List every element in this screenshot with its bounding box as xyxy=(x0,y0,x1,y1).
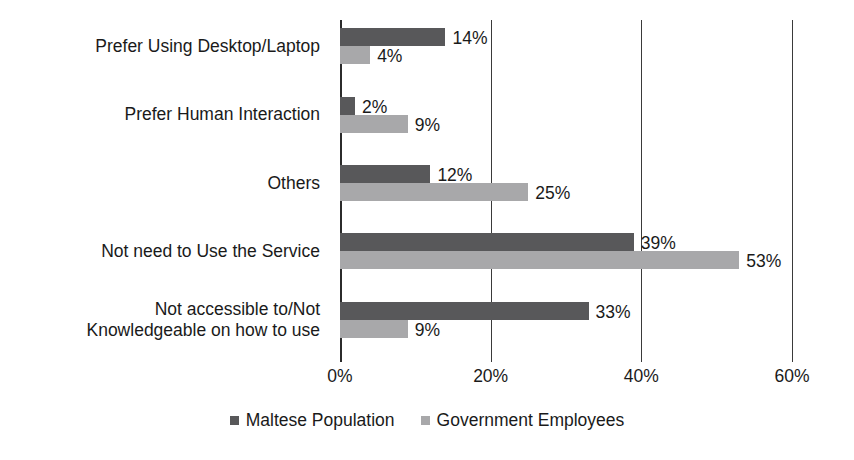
x-tick-label-40: 40% xyxy=(624,366,659,387)
chart-legend: Maltese PopulationGovernment Employees xyxy=(0,410,854,431)
legend-swatch-maltese-population xyxy=(230,416,239,425)
bar-0-4 xyxy=(340,302,589,320)
bar-value-label-0-0: 14% xyxy=(452,29,487,47)
legend-label-1: Government Employees xyxy=(437,410,625,431)
category-label-3: Not need to Use the Service xyxy=(0,241,320,262)
bar-value-label-0-2: 12% xyxy=(437,166,472,184)
legend-item-1[interactable]: Government Employees xyxy=(421,410,625,431)
bar-value-label-1-1: 9% xyxy=(415,116,440,134)
category-label-1: Prefer Human Interaction xyxy=(0,104,320,125)
bar-0-3 xyxy=(340,233,634,251)
bar-1-0 xyxy=(340,46,370,64)
gridline-60 xyxy=(792,20,793,362)
bar-value-label-0-4: 33% xyxy=(596,303,631,321)
gridline-40 xyxy=(641,20,642,362)
legend-label-0: Maltese Population xyxy=(246,410,395,431)
bar-value-label-1-4: 9% xyxy=(415,321,440,339)
bar-value-label-1-0: 4% xyxy=(377,47,402,65)
bar-value-label-0-3: 39% xyxy=(641,234,676,252)
x-tick-label-0: 0% xyxy=(327,366,352,387)
bar-1-2 xyxy=(340,183,528,201)
x-tick-label-60: 60% xyxy=(774,366,809,387)
x-axis-tick-labels: 0%20%40%60% xyxy=(340,366,830,392)
legend-swatch-government-employees xyxy=(421,416,430,425)
category-label-4: Not accessible to/Not Knowledgeable on h… xyxy=(0,299,320,341)
bar-0-0 xyxy=(340,28,445,46)
bar-chart: Prefer Using Desktop/LaptopPrefer Human … xyxy=(0,0,854,460)
x-tick-label-20: 20% xyxy=(473,366,508,387)
legend-item-0[interactable]: Maltese Population xyxy=(230,410,395,431)
bar-0-1 xyxy=(340,97,355,115)
category-axis-labels: Prefer Using Desktop/LaptopPrefer Human … xyxy=(0,20,330,362)
bar-value-label-1-3: 53% xyxy=(746,252,781,270)
category-label-2: Others xyxy=(0,173,320,194)
bar-value-label-1-2: 25% xyxy=(535,184,570,202)
bar-1-3 xyxy=(340,251,739,269)
category-label-0: Prefer Using Desktop/Laptop xyxy=(0,36,320,57)
plot-area: 14%4%2%9%12%25%39%53%33%9% xyxy=(340,20,808,362)
bar-0-2 xyxy=(340,165,430,183)
bar-value-label-0-1: 2% xyxy=(362,98,387,116)
bar-1-4 xyxy=(340,320,408,338)
bar-1-1 xyxy=(340,115,408,133)
